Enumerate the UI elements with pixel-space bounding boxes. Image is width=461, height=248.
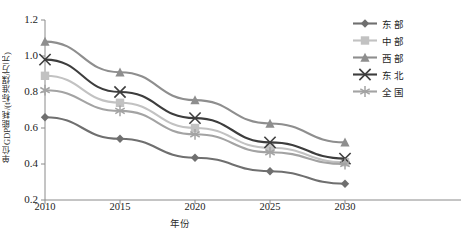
legend-item-东北[interactable]: 东北 (352, 67, 405, 82)
y-tick-label: 1.0 (12, 49, 38, 61)
x-tick-label: 2015 (97, 201, 143, 212)
x-axis-title: 年份 (0, 216, 360, 230)
legend-marker-icon (352, 51, 378, 64)
y-tick-label: 0.6 (12, 121, 38, 133)
x-tick-label: 2010 (22, 201, 68, 212)
legend-item-西部[interactable]: 西部 (352, 50, 405, 65)
legend-item-中部[interactable]: 中部 (352, 33, 405, 48)
x-tick-label: 2020 (172, 201, 218, 212)
legend-label: 全国 (382, 85, 405, 99)
legend-label: 东北 (382, 68, 405, 82)
series-东北 (39, 54, 350, 164)
y-tick-label: 0.4 (12, 157, 38, 169)
legend-marker-icon (352, 17, 378, 30)
x-tick-label: 2025 (247, 201, 293, 212)
legend-label: 西部 (382, 51, 405, 65)
chart-legend: 东部中部西部东北全国 (352, 16, 405, 99)
legend-item-东部[interactable]: 东部 (352, 16, 405, 31)
legend-marker-icon (352, 85, 378, 98)
legend-label: 东部 (382, 17, 405, 31)
y-tick-label: 1.2 (12, 13, 38, 25)
figure-caption (0, 238, 461, 247)
x-tick-label: 2030 (322, 201, 368, 212)
line-chart: 单位GDP能耗/(t标准煤/万元) 0.20.40.60.81.01.2 201… (0, 0, 461, 248)
legend-item-全国[interactable]: 全国 (352, 84, 405, 99)
legend-marker-icon (352, 68, 378, 81)
legend-label: 中部 (382, 34, 405, 48)
legend-marker-icon (352, 34, 378, 47)
y-tick-label: 0.8 (12, 85, 38, 97)
